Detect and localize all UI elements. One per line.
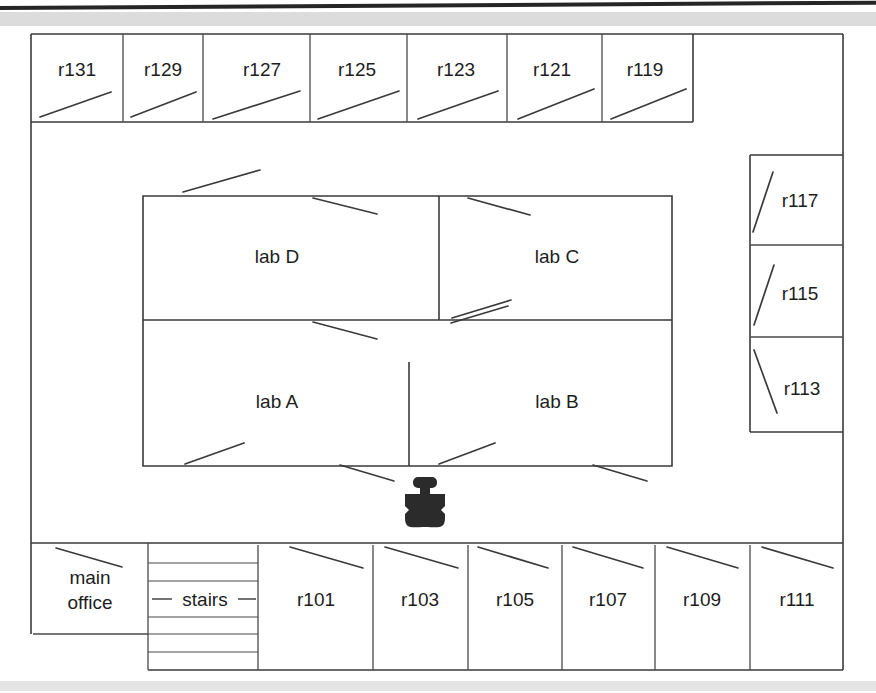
room-label: lab D bbox=[255, 246, 299, 267]
room-label: r103 bbox=[401, 589, 439, 610]
room-r115[interactable]: r115 bbox=[750, 265, 843, 337]
door-swing-icon bbox=[611, 89, 686, 119]
door-swing-icon bbox=[754, 265, 774, 325]
room-label: r107 bbox=[589, 589, 627, 610]
door-swing-icon bbox=[40, 92, 111, 117]
room-r109[interactable]: r109 bbox=[667, 545, 750, 670]
room-label: r131 bbox=[58, 59, 96, 80]
door-swing-icon bbox=[56, 548, 122, 567]
room-label: stairs bbox=[182, 589, 227, 610]
floor-plan-svg: r131 r129 r127 r125 r123 bbox=[0, 0, 876, 693]
door-swing-icon bbox=[573, 547, 643, 568]
door-swing-icon bbox=[183, 170, 260, 192]
lab-block: lab D lab C lab A lab B bbox=[143, 170, 672, 481]
door-swing-icon bbox=[290, 547, 363, 568]
room-label: r111 bbox=[779, 589, 814, 610]
outer-wall bbox=[31, 34, 843, 670]
room-r129[interactable]: r129 bbox=[131, 34, 203, 122]
door-swing-icon bbox=[518, 89, 594, 119]
door-swing-icon bbox=[313, 198, 377, 214]
door-swing-icon bbox=[753, 172, 773, 232]
door-swing-icon bbox=[667, 547, 738, 568]
room-label: lab A bbox=[256, 391, 299, 412]
room-r125[interactable]: r125 bbox=[318, 34, 407, 122]
door-swing-icon bbox=[213, 91, 300, 119]
door-swing-icon bbox=[478, 547, 548, 568]
room-label: r119 bbox=[627, 59, 664, 80]
door-swing-icon bbox=[313, 322, 377, 339]
room-lab-b[interactable]: lab B bbox=[439, 306, 647, 481]
room-label: lab C bbox=[535, 246, 579, 267]
room-label: lab B bbox=[535, 391, 578, 412]
room-r121[interactable]: r121 bbox=[518, 34, 602, 122]
room-label: r113 bbox=[784, 378, 821, 399]
room-lab-c[interactable]: lab C bbox=[452, 198, 579, 318]
door-swing-icon bbox=[185, 443, 244, 464]
door-swing-icon bbox=[131, 92, 196, 117]
room-stairs[interactable]: stairs bbox=[148, 545, 258, 670]
room-label: r127 bbox=[243, 59, 281, 80]
door-swing-icon bbox=[340, 465, 394, 481]
door-swing-icon bbox=[418, 91, 498, 119]
room-r117[interactable]: r117 bbox=[750, 172, 843, 245]
room-r119[interactable]: r119 bbox=[611, 59, 686, 119]
door-swing-icon bbox=[468, 198, 530, 215]
room-label: r125 bbox=[338, 59, 376, 80]
room-r123[interactable]: r123 bbox=[418, 34, 507, 122]
door-swing-icon bbox=[593, 465, 647, 481]
door-swing-icon bbox=[754, 350, 777, 413]
room-r107[interactable]: r107 bbox=[573, 545, 655, 670]
top-room-row: r131 r129 r127 r125 r123 bbox=[40, 34, 686, 122]
room-label-line-1: main bbox=[69, 567, 110, 588]
room-r131[interactable]: r131 bbox=[40, 34, 123, 122]
room-label-line-2: office bbox=[67, 592, 112, 613]
room-r113[interactable]: r113 bbox=[754, 350, 820, 413]
room-r105[interactable]: r105 bbox=[478, 545, 562, 670]
door-swing-icon bbox=[439, 443, 495, 464]
room-label: r115 bbox=[782, 283, 819, 304]
right-room-column: r117 r115 r113 bbox=[750, 155, 843, 432]
room-label: r121 bbox=[533, 59, 571, 80]
door-swing-icon bbox=[762, 547, 833, 568]
room-label: r109 bbox=[683, 589, 721, 610]
room-r103[interactable]: r103 bbox=[385, 545, 468, 670]
bottom-room-row: main office stairs r101 bbox=[33, 543, 833, 670]
floor-plan-page: r131 r129 r127 r125 r123 bbox=[0, 0, 876, 693]
room-label: r101 bbox=[297, 589, 335, 610]
room-main-office[interactable]: main office bbox=[33, 543, 148, 670]
door-swing-icon bbox=[318, 91, 399, 119]
room-r101[interactable]: r101 bbox=[290, 545, 373, 670]
room-r127[interactable]: r127 bbox=[213, 34, 310, 122]
room-label: r105 bbox=[496, 589, 534, 610]
room-label: r129 bbox=[144, 59, 182, 80]
room-r111[interactable]: r111 bbox=[762, 547, 833, 610]
room-label: r117 bbox=[782, 190, 819, 211]
robot-marker-icon[interactable] bbox=[405, 477, 445, 527]
door-swing-icon bbox=[385, 547, 458, 568]
door-swing-icon bbox=[452, 300, 511, 318]
room-lab-a[interactable]: lab A bbox=[185, 391, 394, 481]
room-label: r123 bbox=[437, 59, 475, 80]
